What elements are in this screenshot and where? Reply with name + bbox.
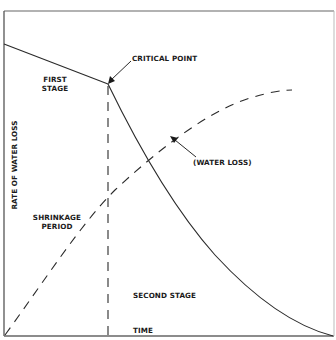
first-stage-label-line2: STAGE bbox=[42, 84, 68, 93]
shrinkage-period-label-line2: PERIOD bbox=[41, 222, 72, 231]
x-axis-label: TIME bbox=[133, 326, 153, 335]
first-stage-label-line1: FIRST bbox=[43, 75, 67, 84]
second-stage-label: SECOND STAGE bbox=[133, 291, 196, 300]
critical-point-label: CRITICAL POINT bbox=[132, 54, 197, 63]
y-axis-label: RATE OF WATER LOSS bbox=[10, 120, 19, 209]
critical-point-arrow bbox=[108, 61, 131, 84]
drying-curve-diagram: CRITICAL POINT FIRST STAGE SHRINKAGE PER… bbox=[0, 0, 336, 340]
water-loss-arrow bbox=[170, 136, 196, 157]
water-loss-label: (WATER LOSS) bbox=[193, 158, 252, 167]
shrinkage-period-label-line1: SHRINKAGE bbox=[33, 213, 81, 222]
